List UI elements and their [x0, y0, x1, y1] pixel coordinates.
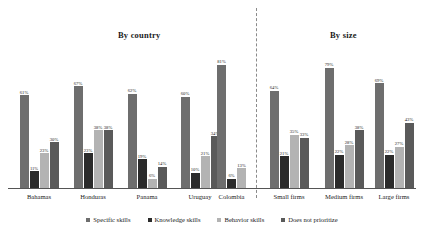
bar-column: 6% — [227, 0, 236, 188]
bar-value-label: 23% — [40, 148, 48, 153]
bar — [237, 168, 246, 188]
bar-column: 69% — [375, 0, 384, 188]
bar-value-label: 6% — [228, 173, 234, 178]
legend-item[interactable]: Behavior skills — [217, 216, 264, 223]
category-axis-label: Panama — [137, 193, 158, 200]
chart-legend: Specific skillsKnowledge skillsBehavior … — [0, 216, 424, 223]
bar-value-label: 69% — [375, 78, 383, 83]
bar-column: 23% — [40, 0, 49, 188]
bar — [191, 173, 200, 188]
category-axis-label: Small firms — [274, 193, 305, 200]
category-axis-label: Uruguay — [188, 193, 211, 200]
plot-area: 61%11%23%30%67%23%38%38%62%19%6%14%60%10… — [0, 0, 424, 188]
bar — [40, 153, 49, 188]
bar — [345, 145, 354, 188]
category-axis-label: Colombia — [218, 193, 244, 200]
bar-column: 35% — [290, 0, 299, 188]
bar-value-label: 28% — [345, 140, 353, 145]
bar-value-label: 11% — [30, 166, 38, 171]
bar-column: 62% — [128, 0, 137, 188]
bar — [128, 94, 137, 188]
bar — [158, 167, 167, 188]
bar-column: 67% — [74, 0, 83, 188]
bar-value-label: 43% — [405, 117, 413, 122]
bar-column: 61% — [20, 0, 29, 188]
bar-value-label: 14% — [158, 161, 166, 166]
bar-column: 21% — [201, 0, 210, 188]
bar-column: 33% — [300, 0, 309, 188]
bar-column: 64% — [270, 0, 279, 188]
bar — [181, 97, 190, 188]
bar-column: 38% — [104, 0, 113, 188]
bar-column: 13% — [237, 0, 246, 188]
bar-group: 64%21%35%33% — [267, 0, 311, 188]
legend-item-label: Behavior skills — [224, 216, 264, 223]
bar-value-label: 79% — [325, 62, 333, 67]
bar-value-label: 21% — [280, 151, 288, 156]
bar-value-label: 38% — [355, 125, 363, 130]
bar-value-label: 67% — [74, 81, 82, 86]
bar — [94, 130, 103, 188]
bar — [355, 130, 364, 188]
bar — [375, 83, 384, 188]
bar-value-label: 22% — [385, 149, 393, 154]
bar-value-label: 61% — [20, 90, 28, 95]
bar-column: 38% — [355, 0, 364, 188]
bar — [148, 179, 157, 188]
bar — [270, 91, 279, 188]
bar-column: 14% — [158, 0, 167, 188]
legend-item[interactable]: Specific skills — [86, 216, 130, 223]
bar — [325, 68, 334, 188]
bar-column: 30% — [50, 0, 59, 188]
category-axis-label: Honduras — [80, 193, 106, 200]
bar-column: 11% — [30, 0, 39, 188]
bar-group: 69%22%27%43% — [372, 0, 416, 188]
bar-value-label: 23% — [84, 148, 92, 153]
bar — [227, 179, 236, 188]
bar-value-label: 64% — [270, 85, 278, 90]
bar-value-label: 38% — [104, 125, 112, 130]
bar — [335, 155, 344, 188]
legend-item[interactable]: Does not prioritize — [281, 216, 337, 223]
bar-value-label: 13% — [237, 163, 245, 168]
bar-column: 22% — [385, 0, 394, 188]
legend-item[interactable]: Knowledge skills — [148, 216, 201, 223]
bar-column: 38% — [94, 0, 103, 188]
category-axis-label: Medium firms — [325, 193, 363, 200]
bar-value-label: 81% — [217, 59, 225, 64]
bar-value-label: 38% — [94, 125, 102, 130]
bar-value-label: 27% — [395, 141, 403, 146]
grouped-bar-chart: By country By size 61%11%23%30%67%23%38%… — [0, 0, 424, 239]
bar-value-label: 22% — [335, 149, 343, 154]
bar-value-label: 62% — [128, 88, 136, 93]
bar-group: 79%22%28%38% — [322, 0, 366, 188]
bar-group: 60%10%21%34% — [178, 0, 222, 188]
legend-swatch-icon — [281, 218, 285, 222]
bar — [30, 171, 39, 188]
bar-column: 28% — [345, 0, 354, 188]
bar-value-label: 10% — [191, 167, 199, 172]
bar-value-label: 6% — [149, 173, 155, 178]
bar — [405, 123, 414, 188]
bar — [290, 135, 299, 188]
bar-column: 27% — [395, 0, 404, 188]
bar-column: 79% — [325, 0, 334, 188]
bar-group: 67%23%38%38% — [71, 0, 115, 188]
bar-value-label: 30% — [50, 137, 58, 142]
legend-item-label: Knowledge skills — [155, 216, 201, 223]
bar — [50, 142, 59, 188]
bar — [20, 95, 29, 188]
bar — [201, 156, 210, 188]
bar-column: 21% — [280, 0, 289, 188]
bar — [385, 155, 394, 188]
bar — [395, 147, 404, 188]
bar-column: 22% — [335, 0, 344, 188]
bar-column: 10% — [191, 0, 200, 188]
bar — [74, 86, 83, 188]
bar-group: 81%6%13% — [217, 0, 247, 188]
bar-column: 19% — [138, 0, 147, 188]
bar — [104, 130, 113, 188]
legend-swatch-icon — [217, 218, 221, 222]
category-axis-label: Bahamas — [27, 193, 51, 200]
category-axis-label: Large firms — [379, 193, 410, 200]
